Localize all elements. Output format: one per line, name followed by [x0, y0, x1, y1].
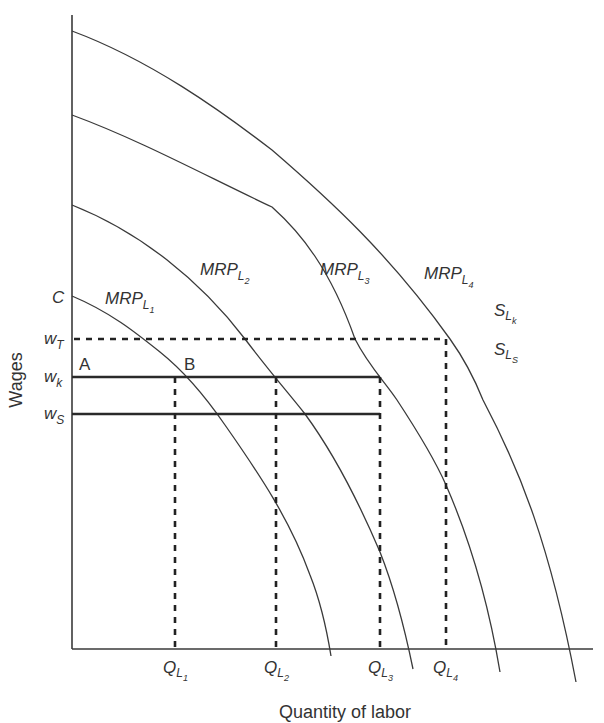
mrp-l2-label: MRPL2: [200, 260, 249, 286]
point-labels: A B: [79, 355, 195, 374]
label-QL4: QL4: [433, 658, 458, 683]
supply-Ls-label: SLS: [494, 340, 518, 365]
label-QL3: QL3: [368, 658, 393, 683]
label-wk: wk: [44, 367, 63, 390]
label-QL1: QL1: [163, 658, 188, 683]
label-QL2: QL2: [264, 658, 289, 683]
supply-Lk-label: SLk: [494, 301, 517, 326]
mrp-l4-label: MRPL4: [424, 264, 473, 290]
x-axis-labels: QL1 QL2 QL3 QL4: [163, 658, 458, 683]
x-axis-title: Quantity of labor: [279, 702, 411, 722]
point-B-label: B: [184, 355, 195, 374]
wage-lines: [72, 339, 446, 414]
axes: [72, 15, 593, 649]
supply-labels: SLk SLS: [494, 301, 518, 365]
labor-market-diagram: C wT wk wS Wages A B MRPL1 MRPL2 MRPL3 M…: [0, 0, 604, 723]
mrp-l1-curve: [72, 296, 331, 656]
label-C: C: [52, 288, 65, 307]
label-ws: wS: [44, 404, 64, 427]
quantity-drop-lines: [175, 339, 446, 649]
mrp-l3-curve: [72, 115, 500, 672]
mrp-l3-label: MRPL3: [320, 260, 369, 286]
curve-labels: MRPL1 MRPL2 MRPL3 MRPL4: [105, 260, 473, 315]
label-wT: wT: [44, 329, 65, 352]
y-axis-labels: C wT wk wS: [44, 288, 65, 427]
mrp-l1-label: MRPL1: [105, 289, 154, 315]
point-A-label: A: [79, 355, 91, 374]
y-axis-title: Wages: [6, 352, 26, 407]
